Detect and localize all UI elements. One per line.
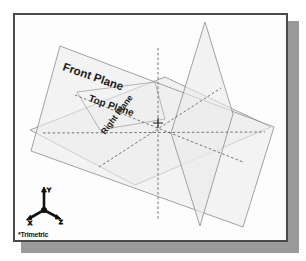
triad-origin-dot xyxy=(41,207,46,212)
triad-y-arrowhead xyxy=(42,187,47,192)
triad-icon[interactable]: Y X Z xyxy=(23,184,69,226)
triad-x-label: X xyxy=(28,220,32,226)
triad-container[interactable]: Y X Z xyxy=(23,184,69,226)
cad-graphics-viewport[interactable]: Front Plane Top Plane Right Plane Y X xyxy=(13,13,288,242)
view-orientation-caption: *Trimetric xyxy=(18,231,48,238)
triad-z-label: Z xyxy=(59,219,63,225)
screenshot-root: Front Plane Top Plane Right Plane Y X xyxy=(0,0,306,261)
triad-y-label: Y xyxy=(47,187,51,193)
